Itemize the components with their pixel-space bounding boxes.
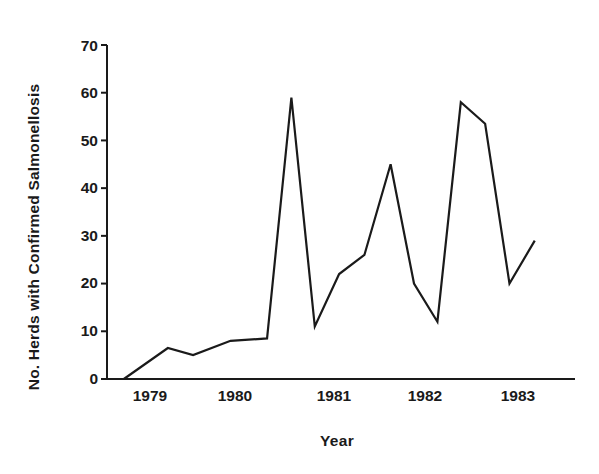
data-line-series-1: [124, 97, 535, 379]
chart-figure: No. Herds with Confirmed Salmonellosis 7…: [0, 0, 599, 474]
plot-area: [0, 0, 599, 474]
x-axis-title: Year: [107, 432, 567, 450]
